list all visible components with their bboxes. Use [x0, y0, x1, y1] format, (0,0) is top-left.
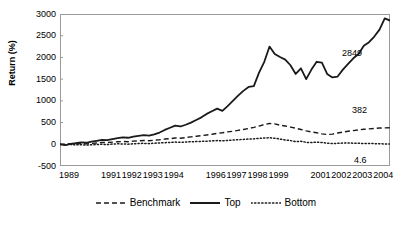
y-tick-label: 3000: [26, 10, 56, 19]
x-tick-label: 1996: [206, 170, 226, 180]
legend-label: Bottom: [285, 198, 317, 208]
return-chart: Return (%) 300025002000150010005000-500 …: [0, 0, 412, 227]
legend-swatch-dotted: [251, 199, 281, 207]
y-axis-title: Return (%): [7, 23, 17, 103]
legend-item-bottom[interactable]: Bottom: [251, 198, 317, 208]
x-tick-label: 2004: [373, 170, 393, 180]
x-tick-label: 1998: [248, 170, 268, 180]
x-tick-label: 2001: [310, 170, 330, 180]
x-tick-label: 1997: [227, 170, 247, 180]
y-tick-label: 1000: [26, 96, 56, 105]
legend-label: Top: [224, 198, 240, 208]
benchmark-end-value-label: 382: [352, 106, 367, 115]
top-end-value-label: 2849: [342, 49, 362, 58]
x-tick-label: 1992: [122, 170, 142, 180]
bottom-end-value-label: 4.6: [354, 156, 367, 165]
y-tick-marks: [60, 36, 63, 145]
plot-lines: [60, 14, 390, 166]
legend-item-top[interactable]: Top: [190, 198, 240, 208]
x-tick-label: 2003: [352, 170, 372, 180]
x-axis-tick-labels: 1989199119921993199419961997199819992001…: [0, 170, 412, 182]
series-group: [60, 18, 390, 145]
y-tick-label: 2500: [26, 31, 56, 40]
y-tick-label: 500: [26, 118, 56, 127]
y-tick-label: 1500: [26, 75, 56, 84]
series-line-benchmark: [60, 123, 390, 144]
chart-legend: BenchmarkTopBottom: [0, 194, 412, 212]
legend-swatch-solid: [190, 199, 220, 207]
x-tick-label: 1991: [101, 170, 121, 180]
legend-label: Benchmark: [130, 198, 181, 208]
x-tick-label: 1999: [269, 170, 289, 180]
legend-item-benchmark[interactable]: Benchmark: [96, 198, 181, 208]
y-tick-label: 0: [26, 140, 56, 149]
x-tick-label: 1993: [143, 170, 163, 180]
y-tick-label: 2000: [26, 53, 56, 62]
x-tick-label: 1989: [59, 170, 79, 180]
x-tick-label: 1994: [164, 170, 184, 180]
x-tick-label: 2002: [331, 170, 351, 180]
y-axis-tick-labels: 300025002000150010005000-500: [22, 0, 56, 227]
series-line-top: [60, 18, 390, 145]
legend-swatch-dashed: [96, 199, 126, 207]
